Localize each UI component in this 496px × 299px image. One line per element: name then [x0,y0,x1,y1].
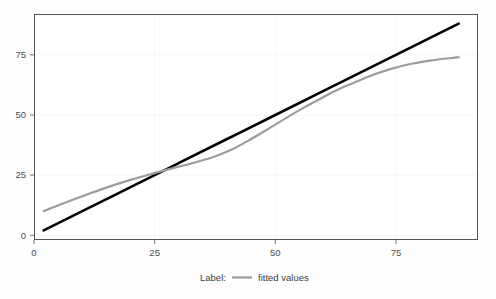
y-axis: 0255075 [15,49,34,240]
x-tick-label-1: 25 [149,247,160,258]
x-axis: 0255075 [31,240,401,258]
x-tick-label-2: 50 [270,247,281,258]
x-tick-label-0: 0 [31,247,36,258]
y-tick-label-2: 50 [15,109,26,120]
y-tick-label-0: 0 [21,230,26,241]
chart-legend: Label: fitted values [200,272,309,283]
x-tick-label-3: 75 [391,247,402,258]
chart-container: 0255075 0255075 Label: fitted values [0,0,496,299]
legend-title: Label: [200,272,226,283]
chart-svg: 0255075 0255075 Label: fitted values [0,0,496,299]
y-tick-label-1: 25 [15,169,26,180]
y-tick-label-3: 75 [15,49,26,60]
legend-label-fitted-values: fitted values [258,272,309,283]
